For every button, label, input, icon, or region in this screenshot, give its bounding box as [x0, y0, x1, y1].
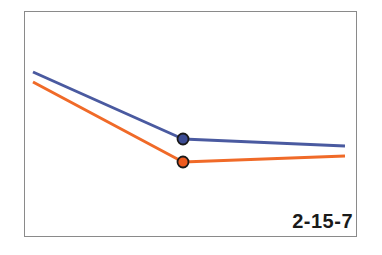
lower-series-marker — [178, 157, 189, 168]
figure: 2-15-7 — [0, 0, 382, 255]
figure-label: 2-15-7 — [292, 210, 353, 233]
upper-series-marker — [178, 134, 189, 145]
upper-series-line — [33, 72, 345, 146]
